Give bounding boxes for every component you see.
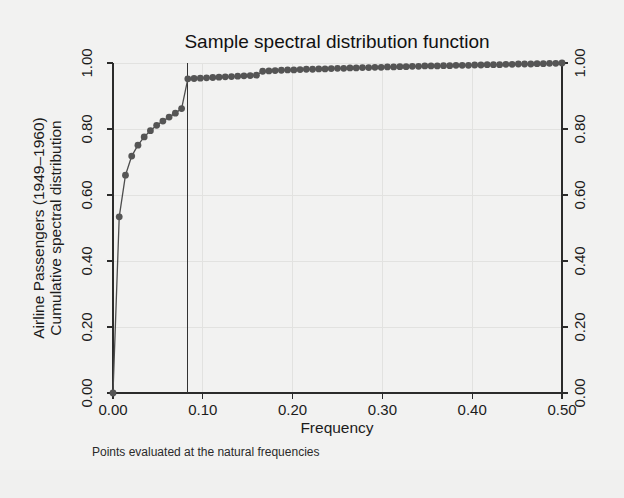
y-tick-label: 0.20	[78, 312, 95, 341]
y-axis-title-line2: Cumulative spectral distribution	[47, 120, 64, 335]
data-point	[284, 67, 291, 74]
right-y-tick-label: 0.60	[571, 180, 588, 209]
data-point	[372, 64, 379, 71]
data-point	[428, 63, 435, 70]
data-point	[197, 75, 204, 82]
data-point	[141, 134, 148, 141]
y-tick-label: 0.60	[78, 180, 95, 209]
data-point	[241, 72, 248, 79]
data-point	[110, 390, 117, 397]
chart-note: Points evaluated at the natural frequenc…	[92, 445, 319, 459]
data-point	[365, 64, 372, 71]
data-point	[465, 62, 472, 69]
data-point	[490, 61, 497, 68]
data-point	[303, 66, 310, 73]
right-y-tick-label: 0.40	[571, 246, 588, 275]
y-tick-label: 0.40	[78, 246, 95, 275]
data-point	[278, 67, 285, 74]
data-point	[228, 73, 235, 80]
data-point	[359, 64, 366, 71]
y-tick-label: 0.00	[78, 378, 95, 407]
data-point	[247, 72, 254, 79]
data-point	[147, 127, 154, 134]
series-markers	[110, 60, 566, 397]
y-axis-title-line1: Airline Passengers (1949–1960)	[30, 117, 47, 338]
data-point	[540, 60, 547, 67]
right-y-tick-label: 0.20	[571, 312, 588, 341]
data-point	[478, 62, 485, 69]
data-point	[172, 110, 179, 117]
data-point	[128, 153, 135, 160]
data-point	[415, 63, 422, 70]
data-point	[266, 68, 273, 75]
chart-title: Sample spectral distribution function	[184, 31, 489, 52]
data-point	[409, 63, 416, 70]
data-point	[434, 63, 441, 70]
spectral-distribution-chart: 0.000.100.200.300.400.50 0.000.200.400.6…	[0, 0, 624, 470]
data-point	[502, 61, 509, 68]
series-line-cumulative	[113, 63, 562, 393]
data-point	[390, 64, 397, 71]
graph-panel: 0.000.100.200.300.400.50 0.000.200.400.6…	[0, 0, 624, 470]
data-point	[340, 65, 347, 72]
data-point	[153, 122, 160, 129]
data-point	[496, 61, 503, 68]
x-axis-title: Frequency	[300, 419, 373, 436]
data-point	[378, 64, 385, 71]
x-tick-labels: 0.000.100.200.300.400.50	[98, 401, 576, 418]
data-point	[509, 61, 516, 68]
data-point	[290, 67, 297, 74]
x-tick-label: 0.30	[368, 401, 397, 418]
data-point	[328, 65, 335, 72]
data-point	[384, 64, 391, 71]
data-point	[122, 172, 129, 179]
data-point	[203, 74, 210, 81]
data-point	[209, 74, 216, 81]
data-point	[184, 75, 191, 82]
data-point	[521, 61, 528, 68]
data-point	[334, 65, 341, 72]
x-tick-label: 0.20	[278, 401, 307, 418]
data-point	[353, 65, 360, 72]
data-point	[471, 62, 478, 69]
data-point	[191, 75, 198, 82]
gridlines	[113, 63, 562, 393]
data-point	[484, 61, 491, 68]
data-point	[166, 114, 173, 121]
right-y-tick-label: 0.80	[571, 114, 588, 143]
data-point	[222, 73, 229, 80]
data-point	[440, 62, 447, 69]
data-point	[297, 66, 304, 73]
x-tick-label: 0.00	[98, 401, 127, 418]
screenshot-root: 0.000.100.200.300.400.50 0.000.200.400.6…	[0, 0, 624, 498]
y-tick-label: 0.80	[78, 114, 95, 143]
data-point	[159, 118, 166, 125]
y-tick-labels: 0.000.200.400.600.801.00	[78, 48, 95, 407]
data-point	[315, 66, 322, 73]
data-point	[272, 67, 279, 74]
data-point	[347, 65, 354, 72]
data-point	[178, 105, 185, 112]
x-tick-label: 0.40	[458, 401, 487, 418]
data-point	[253, 72, 260, 79]
data-point	[396, 63, 403, 70]
data-point	[135, 142, 142, 149]
right-y-tick-label: 1.00	[571, 48, 588, 77]
data-point	[322, 66, 329, 73]
data-point	[527, 61, 534, 68]
data-point	[421, 63, 428, 70]
data-point	[259, 68, 266, 75]
data-point	[403, 63, 410, 70]
data-point	[559, 60, 566, 67]
data-point	[116, 213, 123, 220]
right-y-tick-label: 0.00	[571, 378, 588, 407]
data-point	[453, 62, 460, 69]
data-point	[309, 66, 316, 73]
data-point	[546, 60, 553, 67]
data-point	[552, 60, 559, 67]
data-point	[234, 73, 241, 80]
data-point	[459, 62, 466, 69]
data-point	[216, 74, 223, 81]
data-point	[515, 61, 522, 68]
data-point	[446, 62, 453, 69]
